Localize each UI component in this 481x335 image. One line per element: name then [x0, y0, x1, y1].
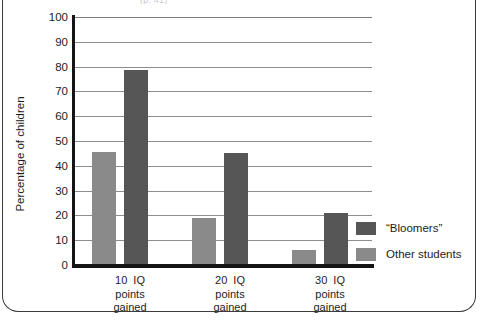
bar-other-students-10iq	[92, 152, 116, 265]
gridline-100	[75, 17, 372, 18]
x-label-line3: gained	[175, 301, 285, 315]
gridline-60	[75, 116, 372, 117]
legend-item-other-students: Other students	[356, 241, 476, 267]
x-category-label-10iq: 10 IQ points gained	[75, 274, 185, 315]
chart-screenshot: (p. 41) Percentage of children 100 90 80…	[0, 0, 481, 335]
gridline-90	[75, 42, 372, 43]
legend-label-other-students: Other students	[386, 248, 461, 260]
y-tick-80: 80	[36, 61, 68, 73]
x-label-line2: points	[75, 288, 185, 302]
bar-other-students-30iq	[292, 250, 316, 265]
x-label-line3: gained	[75, 301, 185, 315]
y-tick-90: 90	[36, 36, 68, 48]
bar-other-students-20iq	[192, 218, 216, 265]
y-axis-line	[72, 15, 75, 267]
x-label-line3: gained	[275, 301, 385, 315]
gridline-80	[75, 67, 372, 68]
x-label-line1: 20 IQ	[175, 274, 285, 288]
y-tick-30: 30	[36, 185, 68, 197]
y-axis-tick-labels: 100 90 80 70 60 50 40 30 20 10 0	[30, 17, 68, 265]
plot-area	[75, 17, 372, 265]
grouped-bar-chart: Percentage of children 100 90 80 70 60 5…	[0, 0, 481, 335]
y-tick-0: 0	[36, 259, 68, 271]
bar-bloomers-20iq	[224, 153, 248, 265]
gridline-70	[75, 91, 372, 92]
legend-label-bloomers: “Bloomers”	[386, 222, 442, 234]
x-category-label-30iq: 30 IQ points gained	[275, 274, 385, 315]
x-label-line1: 30 IQ	[275, 274, 385, 288]
y-tick-50: 50	[36, 135, 68, 147]
chart-legend: “Bloomers” Other students	[356, 215, 476, 267]
legend-item-bloomers: “Bloomers”	[356, 215, 476, 241]
x-label-line2: points	[175, 288, 285, 302]
y-tick-100: 100	[36, 11, 68, 23]
y-tick-60: 60	[36, 110, 68, 122]
y-tick-70: 70	[36, 85, 68, 97]
gridline-50	[75, 141, 372, 142]
legend-swatch-other-students	[356, 248, 376, 261]
bar-bloomers-30iq	[324, 213, 348, 265]
legend-swatch-bloomers	[356, 222, 376, 235]
y-axis-title: Percentage of children	[14, 74, 26, 234]
x-label-line1: 10 IQ	[75, 274, 185, 288]
bar-bloomers-10iq	[124, 70, 148, 265]
x-label-line2: points	[275, 288, 385, 302]
x-axis-line	[72, 264, 374, 268]
y-tick-20: 20	[36, 209, 68, 221]
y-tick-10: 10	[36, 234, 68, 246]
y-tick-40: 40	[36, 160, 68, 172]
x-category-label-20iq: 20 IQ points gained	[175, 274, 285, 315]
